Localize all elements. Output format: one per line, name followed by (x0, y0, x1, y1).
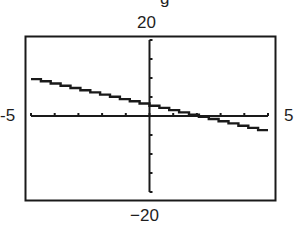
graph-screen (0, 0, 302, 231)
axes (31, 40, 268, 192)
